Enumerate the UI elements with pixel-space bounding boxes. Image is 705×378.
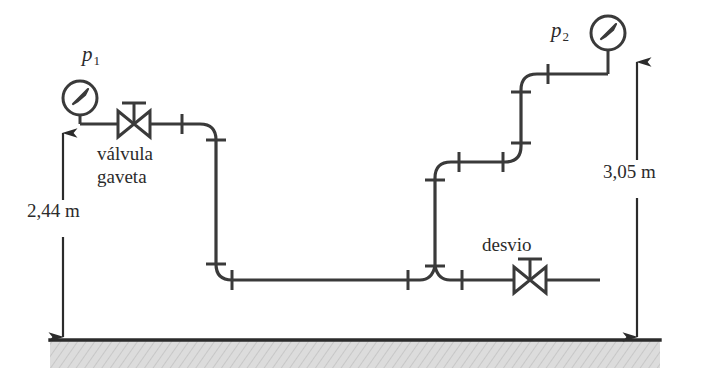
pressure-gauge-p1-symbol bbox=[63, 81, 97, 124]
pipe-left-riser-drop bbox=[200, 124, 232, 280]
pressure-label-p1: p1 bbox=[82, 42, 99, 67]
gate-valve-label-line2: gaveta bbox=[97, 165, 153, 188]
gate-valve-symbol bbox=[118, 103, 150, 137]
pipe-upper-horizontal bbox=[521, 74, 608, 90]
pressure-label-p2-text: p bbox=[551, 18, 562, 42]
bypass-label: desvio bbox=[482, 234, 532, 256]
tee-fillet-left bbox=[420, 266, 435, 280]
bypass-valve-right-body bbox=[530, 267, 546, 293]
pipe-shelf-to-upper-riser bbox=[505, 90, 521, 162]
elevation-label-left: 2,44 m bbox=[24, 200, 83, 222]
pressure-gauge-p2-symbol bbox=[591, 16, 625, 74]
pipe-flanges bbox=[182, 64, 548, 290]
pressure-label-p2-sub: 2 bbox=[563, 29, 570, 44]
gate-valve-left-body bbox=[118, 111, 134, 137]
gate-valve-right-body bbox=[134, 111, 150, 137]
piping-diagram: p1 p2 válvula gaveta desvio 2,44 m 3,05 … bbox=[0, 0, 705, 378]
bypass-valve-left-body bbox=[514, 267, 530, 293]
tee-fillet-right bbox=[435, 266, 450, 280]
pressure-label-p1-sub: 1 bbox=[94, 53, 101, 68]
pressure-label-p2: p2 bbox=[551, 18, 568, 43]
bypass-valve-symbol bbox=[514, 259, 546, 293]
dimension-lines bbox=[63, 62, 637, 337]
elevation-label-right: 3,05 m bbox=[600, 161, 659, 183]
pipe-elbow-to-shelf bbox=[435, 162, 505, 178]
pressure-label-p1-text: p bbox=[82, 42, 93, 66]
diagram-canvas bbox=[0, 0, 705, 378]
gate-valve-label: válvula gaveta bbox=[97, 142, 153, 188]
gate-valve-label-line1: válvula bbox=[97, 142, 153, 165]
ground bbox=[50, 340, 660, 368]
